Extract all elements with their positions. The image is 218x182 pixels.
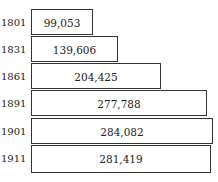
bar-1831: 139,606 <box>31 36 118 62</box>
bar-value: 281,419 <box>32 146 210 172</box>
chart-row-1801: 1801 99,053 <box>0 9 218 36</box>
bar-value: 284,082 <box>32 119 212 143</box>
bar-1911: 281,419 <box>31 145 211 173</box>
chart-row-1901: 1901 284,082 <box>0 118 218 145</box>
bar-value: 204,425 <box>32 64 160 88</box>
bar-value: 277,788 <box>32 91 206 115</box>
year-label: 1891 <box>1 90 30 117</box>
year-label: 1901 <box>1 118 30 145</box>
bar-1891: 277,788 <box>31 90 207 116</box>
bar-1861: 204,425 <box>31 63 161 89</box>
chart-row-1831: 1831 139,606 <box>0 36 218 63</box>
year-label: 1801 <box>1 9 30 36</box>
bar-value: 139,606 <box>32 37 117 61</box>
chart-row-1911: 1911 281,419 <box>0 145 218 172</box>
bar-1801: 99,053 <box>31 9 93 35</box>
chart-row-1891: 1891 277,788 <box>0 90 218 117</box>
year-label: 1861 <box>1 63 30 90</box>
year-label: 1831 <box>1 36 30 63</box>
year-label: 1911 <box>1 145 30 172</box>
bar-value: 99,053 <box>32 10 92 34</box>
chart-row-1861: 1861 204,425 <box>0 63 218 90</box>
bar-1901: 284,082 <box>31 118 213 144</box>
